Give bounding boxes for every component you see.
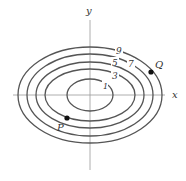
contour-label-1: 1 — [103, 82, 108, 91]
point-p-marker — [64, 115, 69, 120]
point-q-label: Q — [155, 59, 163, 70]
contour-label-5: 5 — [112, 58, 118, 68]
contour-label-3: 3 — [112, 71, 118, 81]
y-axis-label: y — [85, 5, 92, 16]
contour-label-9: 9 — [116, 46, 122, 56]
point-q-marker — [148, 69, 153, 74]
contour-diagram: x y 9 7 5 3 1 Q P — [0, 0, 186, 181]
contour-label-7: 7 — [128, 59, 134, 69]
x-axis-label: x — [172, 89, 178, 100]
point-p-label: P — [56, 122, 64, 133]
